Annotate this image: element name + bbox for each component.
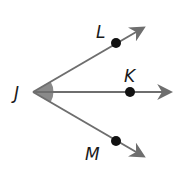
label-K: K <box>124 66 137 86</box>
point-L <box>111 38 121 48</box>
label-J: J <box>11 83 19 103</box>
point-M <box>111 136 121 146</box>
label-M: M <box>85 144 100 164</box>
angle-diagram: J L K M <box>0 0 187 170</box>
point-K <box>125 87 135 97</box>
label-L: L <box>96 22 105 42</box>
